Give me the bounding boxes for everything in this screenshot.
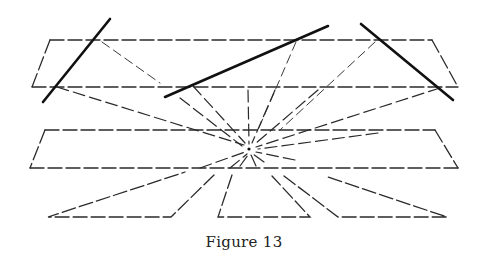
upper-band-right-edge [432,40,458,87]
construction-ray [102,42,160,83]
bottom-left-triangle [48,172,214,217]
ray-lower-mid-b [251,155,256,166]
ray-vertical [248,90,249,144]
ray-lower-left-a [200,152,245,168]
ray-lower-right-a [253,154,264,162]
ray-from-right-thick-line [256,88,440,147]
middle-band-left-edge [30,130,45,168]
bottom-center-trapezoid [218,175,310,217]
construction-ray [280,42,375,130]
middle-band-right-edge [435,130,458,168]
figure-13-diagram [0,0,488,257]
upper-band-left-edge [32,40,50,87]
vanishing-point-dot [247,147,250,150]
thick-line-right [361,24,453,100]
ray-upper-right-a [252,90,275,143]
converging-rays [57,86,440,168]
upper-construction-rays [102,42,375,130]
ray-upper-right-b [255,90,318,144]
bottom-shapes [48,172,447,217]
thick-line-left [43,19,110,102]
middle-band [30,130,458,168]
ray-lower-right-b [256,152,295,160]
ray-from-left-thick-line [57,87,244,145]
bottom-center-right-edge [284,176,447,217]
figure-caption: Figure 13 [0,233,488,251]
